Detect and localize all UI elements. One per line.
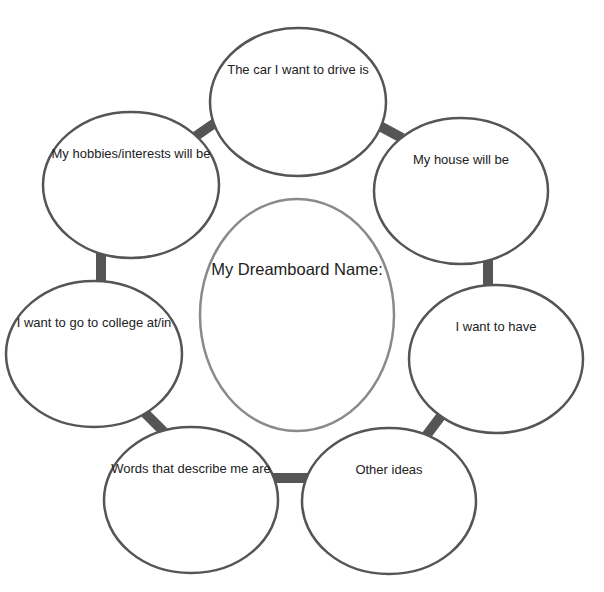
bubble-car-label: The car I want to drive is bbox=[227, 62, 369, 77]
dreamboard-svg: The car I want to drive isMy house will … bbox=[0, 0, 604, 592]
bubble-want-shape bbox=[409, 285, 583, 433]
bubble-college-label: I want to go to college at/in bbox=[17, 315, 172, 330]
bubble-car[interactable]: The car I want to drive is bbox=[210, 28, 386, 176]
bubble-hobbies-label: My hobbies/interests will be bbox=[52, 146, 211, 161]
dreamboard-name-label: My Dreamboard Name: bbox=[211, 260, 382, 278]
bubble-want-label: I want to have bbox=[456, 319, 537, 334]
bubble-college[interactable]: I want to go to college at/in bbox=[6, 281, 182, 427]
dreamboard-diagram: The car I want to drive isMy house will … bbox=[0, 0, 604, 592]
bubble-want[interactable]: I want to have bbox=[409, 285, 583, 433]
bubble-hobbies-shape bbox=[43, 112, 219, 258]
bubble-car-shape bbox=[210, 28, 386, 176]
bubble-hobbies[interactable]: My hobbies/interests will be bbox=[43, 112, 219, 258]
bubble-college-shape bbox=[6, 281, 182, 427]
bubble-other-shape bbox=[302, 428, 476, 574]
center-bubble-shape bbox=[200, 199, 394, 431]
bubble-words-shape bbox=[104, 427, 278, 573]
center-bubble-group: My Dreamboard Name: bbox=[200, 199, 394, 431]
center-bubble[interactable]: My Dreamboard Name: bbox=[200, 199, 394, 431]
bubble-words-label: Words that describe me are bbox=[111, 461, 270, 476]
bubble-words[interactable]: Words that describe me are bbox=[104, 427, 278, 573]
bubble-other-label: Other ideas bbox=[355, 462, 423, 477]
bubble-house-label: My house will be bbox=[413, 152, 509, 167]
bubble-house-shape bbox=[374, 118, 548, 264]
bubble-other[interactable]: Other ideas bbox=[302, 428, 476, 574]
bubble-house[interactable]: My house will be bbox=[374, 118, 548, 264]
